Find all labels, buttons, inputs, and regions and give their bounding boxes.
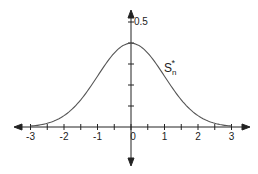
x-axis-left-arrow-icon xyxy=(14,124,22,130)
x-tick-label: -1 xyxy=(93,131,102,142)
y-tick-label: 0.5 xyxy=(134,16,148,27)
x-tick-label: 3 xyxy=(229,131,235,142)
axes xyxy=(14,10,250,166)
x-tick-label: 0 xyxy=(130,131,136,142)
y-axis-down-arrow-icon xyxy=(128,158,134,166)
tick-labels: -3-2-101230.5 xyxy=(26,16,235,142)
x-tick-label: -3 xyxy=(26,131,35,142)
x-tick-label: 1 xyxy=(162,131,168,142)
x-axis-right-arrow-icon xyxy=(242,124,250,130)
normal-curve-chart: -3-2-101230.5 Sn* xyxy=(0,0,258,174)
x-tick-label: 2 xyxy=(195,131,201,142)
x-tick-label: -2 xyxy=(60,131,69,142)
series-label: Sn* xyxy=(164,58,176,77)
